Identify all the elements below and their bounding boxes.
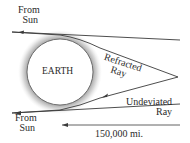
arrow-head-icon: [62, 123, 68, 127]
undeviated-label: Undeviated Ray: [126, 97, 172, 117]
arrow-head-icon: [102, 94, 108, 98]
top-source-label: From Sun: [18, 5, 40, 25]
earth-label: EARTH: [42, 66, 73, 76]
distance-label: 150,000 mi.: [95, 129, 143, 139]
bottom-source-label: From Sun: [15, 113, 37, 133]
